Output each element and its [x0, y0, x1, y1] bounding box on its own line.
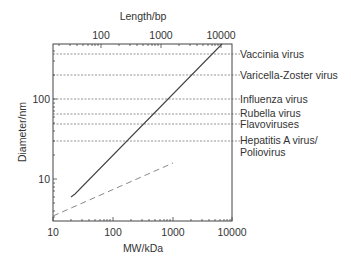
reference-lines — [53, 54, 240, 141]
y-tick-label: 100 — [32, 93, 50, 105]
x-axis-ticks — [53, 217, 232, 221]
reference-label: Influenza virus — [240, 93, 308, 105]
x-tick-label: 100 — [104, 226, 122, 238]
x-tick-label: 10 — [47, 226, 59, 238]
reference-label: Poliovirus — [240, 146, 286, 158]
x2-axis-ticks — [59, 44, 221, 48]
series-dashed-line — [53, 163, 173, 216]
reference-label: Vaccinia virus — [240, 48, 304, 60]
reference-label: Hepatitis A virus/ — [240, 134, 318, 146]
x2-axis-title: Length/bp — [120, 10, 167, 22]
plot-frame — [53, 44, 232, 221]
reference-label: Flavoviruses — [240, 118, 299, 130]
y-tick-label: 10 — [38, 173, 50, 185]
y-axis-ticks — [53, 51, 57, 217]
x2-tick-label: 1000 — [149, 29, 173, 41]
series-solid-line — [71, 44, 222, 197]
x2-tick-label: 100 — [92, 29, 110, 41]
reference-label: Varicella-Zoster virus — [240, 69, 338, 81]
x-tick-label: 1000 — [161, 226, 185, 238]
x-tick-label: 10000 — [217, 226, 246, 238]
x2-tick-label: 10000 — [206, 29, 235, 41]
y-axis-title: Diameter/nm — [16, 102, 28, 162]
x-axis-title: MW/kDa — [123, 242, 163, 254]
chart: 10 100 1000 10000 MW/kDa 100 1000 10000 … — [0, 0, 351, 259]
